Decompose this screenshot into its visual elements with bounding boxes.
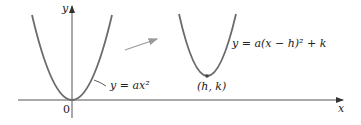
origin-label: 0 — [63, 103, 70, 116]
translation-arrow — [125, 39, 157, 50]
x-axis-label: x — [338, 102, 345, 115]
y-axis-label: y — [61, 2, 69, 15]
parabola-translation-diagram: y x 0 y = ax² y = a(x − h)² + k (h, k) — [0, 0, 361, 125]
base-label-leader — [94, 80, 106, 86]
base-equation-label: y = ax² — [109, 79, 150, 92]
shifted-equation-label: y = a(x − h)² + k — [231, 37, 327, 50]
shifted-parabola-curve — [179, 14, 236, 76]
vertex-label: (h, k) — [197, 80, 226, 93]
vertex-point — [205, 74, 209, 78]
